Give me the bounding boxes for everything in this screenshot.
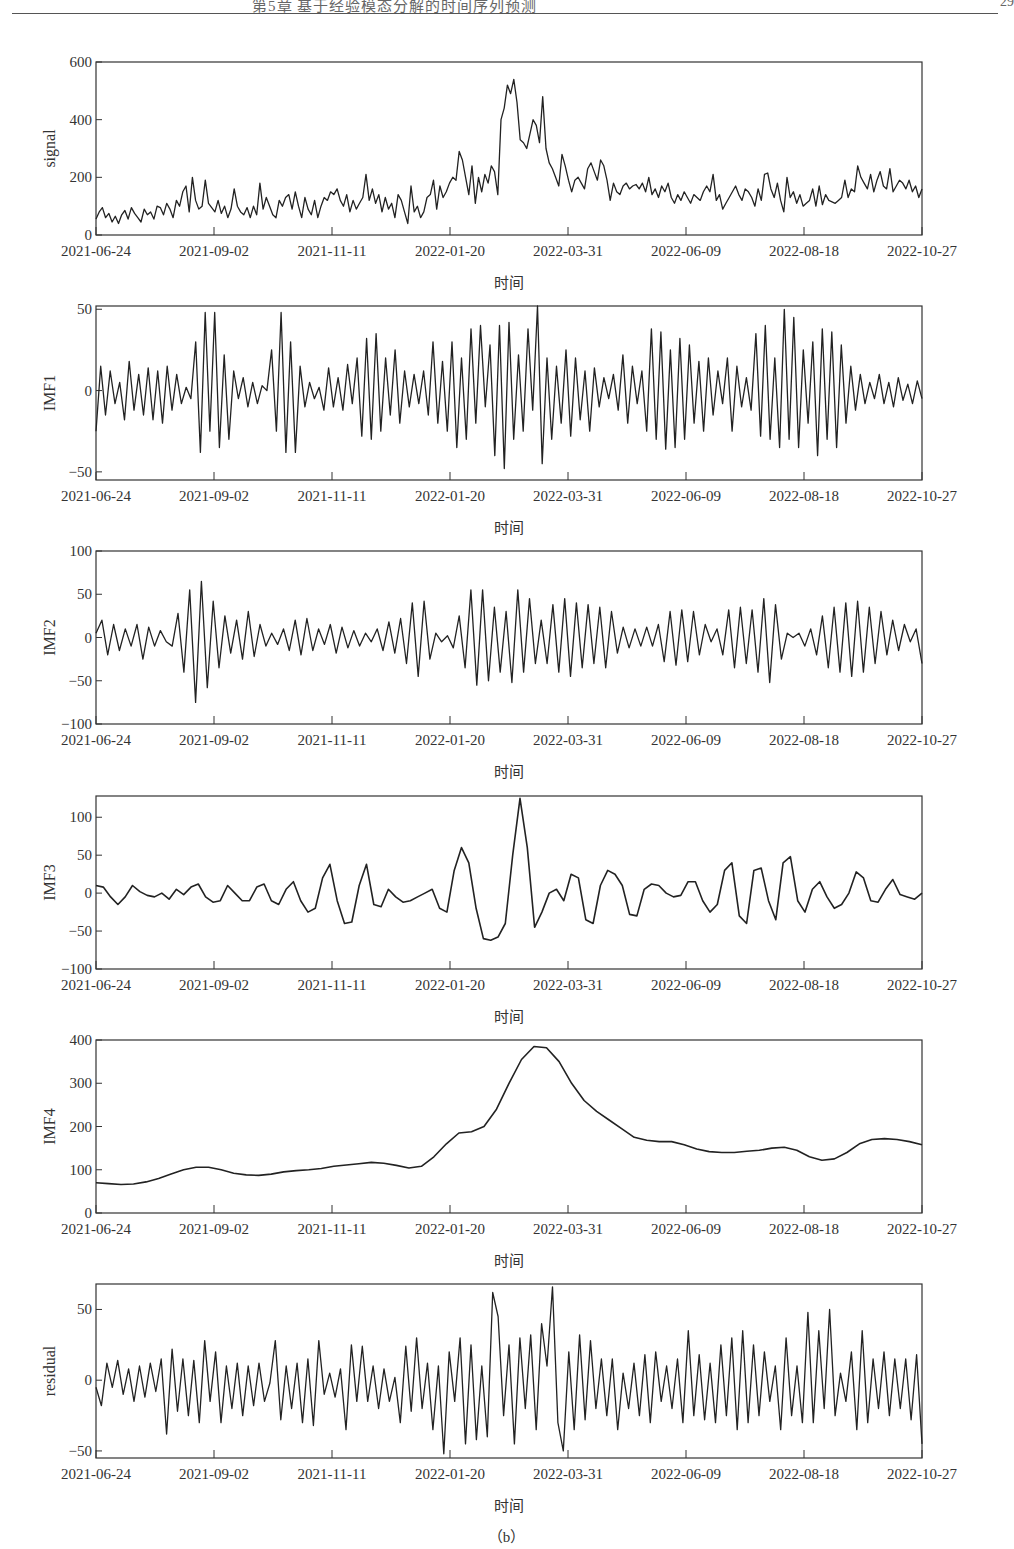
x-tick-label: 2022-10-27 (887, 1466, 957, 1482)
figure-caption: （b） (0, 1525, 1013, 1546)
x-tick-label: 2021-06-24 (61, 1466, 131, 1482)
x-tick-label: 2022-03-31 (533, 1466, 603, 1482)
y-tick-label: 0 (85, 1372, 93, 1388)
series-line-residual (96, 1287, 922, 1454)
y-axis-label: residual (41, 1345, 58, 1396)
x-tick-label: 2022-06-09 (651, 1466, 721, 1482)
x-tick-label: 2022-01-20 (415, 1466, 485, 1482)
x-axis-label: 时间 (494, 1498, 524, 1514)
x-tick-label: 2021-11-11 (298, 1466, 367, 1482)
x-tick-label: 2021-09-02 (179, 1466, 249, 1482)
x-tick-label: 2022-08-18 (769, 1466, 839, 1482)
y-tick-label: −50 (69, 1443, 92, 1459)
y-tick-label: 50 (77, 1301, 92, 1317)
